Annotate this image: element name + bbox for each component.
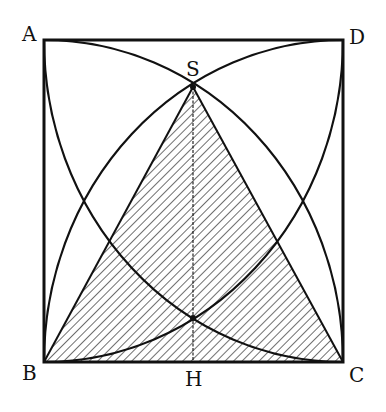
label-d: D (349, 25, 365, 49)
label-b: B (22, 361, 37, 385)
point-s (190, 84, 196, 90)
label-c: C (349, 363, 364, 387)
point-x (190, 315, 196, 321)
label-s: S (186, 57, 200, 81)
geometry-diagram: A D S B H C (0, 0, 386, 412)
label-h: H (185, 367, 202, 391)
label-a: A (21, 22, 37, 46)
